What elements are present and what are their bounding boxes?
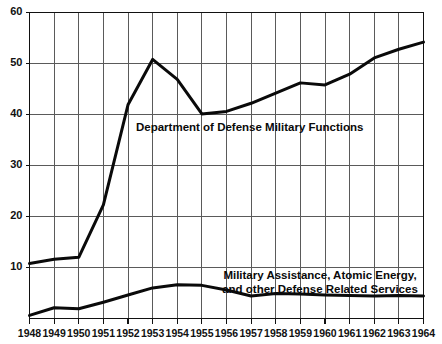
series-label-defense-military-functions: Department of Defense Military Functions	[136, 121, 363, 133]
y-tick-label: 50	[10, 56, 22, 68]
x-tick-label: 1952	[116, 327, 140, 339]
x-tick-label: 1963	[387, 327, 411, 339]
y-tick-label: 40	[10, 107, 22, 119]
x-tick-label: 1953	[141, 327, 165, 339]
y-tick-label: 20	[10, 209, 22, 221]
x-tick-label: 1957	[239, 327, 263, 339]
x-tick-label: 1961	[338, 327, 362, 339]
y-tick-label: 30	[10, 158, 22, 170]
x-tick-label: 1955	[190, 327, 214, 339]
x-tick-label: 1959	[289, 327, 313, 339]
x-tick-label: 1964	[412, 327, 436, 339]
x-tick-label: 1948	[18, 327, 42, 339]
x-tick-label: 1962	[363, 327, 387, 339]
x-tick-label: 1954	[166, 327, 190, 339]
series-label-military-assistance-line2: and other Defense Related Services	[222, 283, 418, 295]
x-tick-label: 1951	[92, 327, 116, 339]
x-tick-label: 1949	[42, 327, 66, 339]
line-chart: 102030405060 194819491950195119521953195…	[0, 0, 442, 344]
x-tick-label: 1958	[264, 327, 288, 339]
x-tick-label: 1956	[215, 327, 239, 339]
x-tick-label: 1950	[67, 327, 91, 339]
x-tick-label: 1960	[313, 327, 337, 339]
y-tick-label: 60	[10, 5, 22, 17]
x-axis-tick-labels: 1948194919501951195219531954195519561957…	[18, 327, 436, 339]
y-tick-label: 10	[10, 260, 22, 272]
series-label-military-assistance-line1: Military Assistance, Atomic Energy,	[223, 269, 416, 281]
chart-container: 102030405060 194819491950195119521953195…	[0, 0, 442, 344]
